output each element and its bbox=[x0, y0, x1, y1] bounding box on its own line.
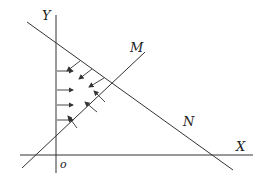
diagram-canvas bbox=[0, 0, 269, 185]
line-m bbox=[22, 52, 145, 168]
field-arrows bbox=[57, 61, 105, 128]
x-axis-label: X bbox=[236, 140, 245, 153]
arrow-n-2 bbox=[79, 69, 92, 79]
line-m-label: M bbox=[130, 41, 143, 54]
line-n-label: N bbox=[183, 115, 194, 128]
arrow-n-3 bbox=[89, 78, 104, 87]
origin-label: o bbox=[60, 159, 67, 170]
arrow-m-1 bbox=[94, 91, 105, 102]
arrow-n-1 bbox=[67, 61, 80, 71]
y-axis-label: Y bbox=[42, 9, 51, 22]
